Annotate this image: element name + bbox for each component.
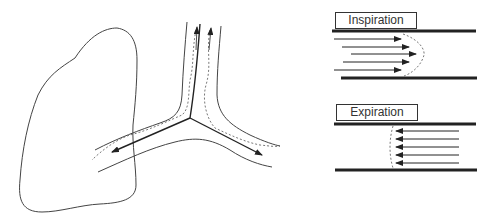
- expiration-label: Expiration: [336, 104, 418, 121]
- flow-arrows: [112, 27, 262, 155]
- dashed-flow-paths: [92, 30, 280, 160]
- airflow-diagram: [0, 0, 498, 221]
- lung-outline: [20, 28, 137, 212]
- inspiration-panel: [332, 31, 477, 78]
- expiration-panel: [334, 124, 477, 170]
- inspiration-label: Inspiration: [335, 12, 417, 29]
